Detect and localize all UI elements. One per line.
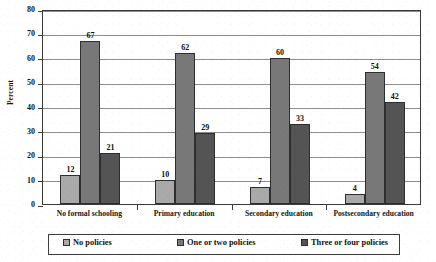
legend-label: No policies (73, 238, 112, 247)
bar-value-label: 21 (94, 143, 126, 152)
bar-value-label: 67 (74, 31, 106, 40)
bar (270, 58, 290, 204)
y-axis-tick-mark (38, 35, 43, 36)
legend-item[interactable]: Three or four policies (301, 238, 388, 247)
y-axis-tick-mark (38, 181, 43, 182)
plot-area: 1267211062297603345442 (42, 10, 421, 205)
bar-value-label: 62 (169, 43, 201, 52)
y-axis-tick-mark (38, 59, 43, 60)
y-axis-tick-label: 50 (9, 78, 35, 87)
legend-swatch-icon (177, 239, 184, 246)
y-axis-tick-mark (38, 11, 43, 12)
bar-group: 76033 (250, 11, 310, 204)
bar-group: 106229 (155, 11, 215, 204)
chart-legend: No policiesOne or two policiesThree or f… (48, 234, 400, 255)
bar (155, 180, 175, 204)
bar-group: 45442 (345, 11, 405, 204)
y-axis-tick-mark (38, 157, 43, 158)
legend-label: Three or four policies (311, 238, 388, 247)
bar-chart: Percent 1267211062297603345442 010203040… (0, 0, 436, 262)
bar (345, 194, 365, 204)
x-axis-category-label: Postsecondary education (308, 209, 436, 218)
bar-value-label: 60 (264, 48, 296, 57)
y-axis-tick-label: 10 (9, 176, 35, 185)
y-axis-tick-label: 80 (9, 5, 35, 14)
bar-value-label: 33 (284, 114, 316, 123)
legend-item[interactable]: No policies (63, 238, 112, 247)
y-axis-tick-mark (38, 84, 43, 85)
bar (80, 41, 100, 204)
bar (60, 175, 80, 204)
y-axis-tick-label: 20 (9, 151, 35, 160)
bar-value-label: 54 (359, 62, 391, 71)
legend-swatch-icon (63, 239, 70, 246)
y-axis-tick-label: 60 (9, 54, 35, 63)
bar-value-label: 42 (379, 92, 411, 101)
bar (290, 124, 310, 204)
y-axis-tick-mark (38, 108, 43, 109)
bar (195, 133, 215, 204)
bar-value-label: 29 (189, 123, 221, 132)
y-axis-tick-label: 70 (9, 29, 35, 38)
y-axis-tick-mark (38, 206, 43, 207)
bar (250, 187, 270, 204)
bar-group: 126721 (60, 11, 120, 204)
legend-label: One or two policies (187, 238, 255, 247)
bar (100, 153, 120, 204)
legend-item[interactable]: One or two policies (177, 238, 255, 247)
y-axis-tick-label: 30 (9, 127, 35, 136)
bar (385, 102, 405, 204)
y-axis-title: Percent (6, 63, 15, 123)
y-axis-tick-label: 0 (9, 200, 35, 209)
y-axis-tick-mark (38, 132, 43, 133)
y-axis-tick-label: 40 (9, 103, 35, 112)
legend-swatch-icon (301, 239, 308, 246)
